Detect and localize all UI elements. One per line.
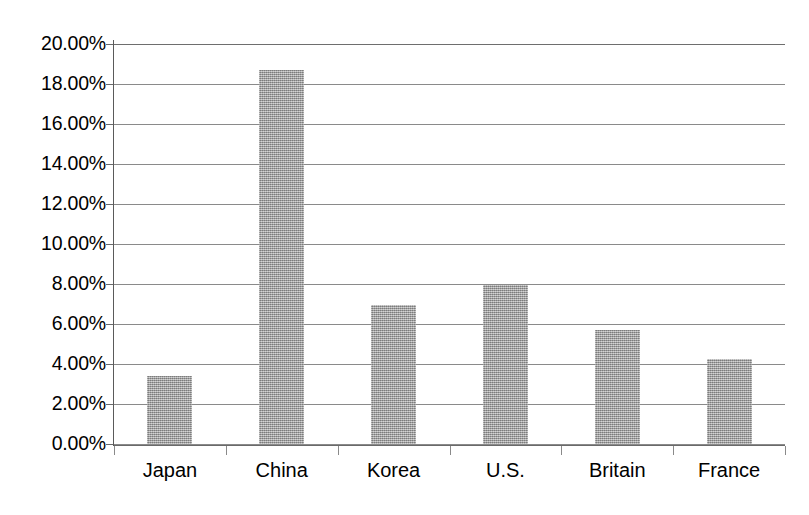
gridline — [114, 404, 785, 405]
y-axis-labels: 0.00%2.00%4.00%6.00%8.00%10.00%12.00%14.… — [0, 0, 106, 515]
y-axis-tick-label: 18.00% — [0, 74, 106, 94]
bar — [483, 285, 528, 444]
bar-chart: 0.00%2.00%4.00%6.00%8.00%10.00%12.00%14.… — [0, 0, 809, 515]
x-axis-tick-mark — [114, 446, 115, 455]
gridline — [114, 84, 785, 85]
x-axis-tick-mark — [338, 446, 339, 455]
y-axis-tick-label: 0.00% — [0, 434, 106, 454]
x-axis-category-label: Korea — [338, 459, 450, 482]
x-axis-category-label: France — [673, 459, 785, 482]
gridline — [114, 44, 785, 45]
x-axis-labels: JapanChinaKoreaU.S.BritainFrance — [114, 459, 785, 493]
gridline — [114, 164, 785, 165]
y-axis-tick-label: 2.00% — [0, 394, 106, 414]
y-axis-tick-label: 6.00% — [0, 314, 106, 334]
plot-area — [114, 44, 785, 444]
x-axis-category-label: Japan — [114, 459, 226, 482]
gridline — [114, 244, 785, 245]
x-axis-tick-mark — [226, 446, 227, 455]
gridline — [114, 444, 785, 445]
x-axis-tick-mark — [785, 446, 786, 455]
y-axis-tick-label: 16.00% — [0, 114, 106, 134]
bar — [259, 70, 304, 444]
bar — [707, 359, 752, 444]
gridline — [114, 364, 785, 365]
x-axis-tick-mark — [673, 446, 674, 455]
x-axis-category-label: China — [226, 459, 338, 482]
x-axis-tick-mark — [561, 446, 562, 455]
x-axis-category-label: Britain — [561, 459, 673, 482]
gridline — [114, 204, 785, 205]
y-axis-tick-label: 20.00% — [0, 34, 106, 54]
bar — [371, 305, 416, 444]
x-axis-category-label: U.S. — [450, 459, 562, 482]
gridline — [114, 284, 785, 285]
bar — [595, 330, 640, 444]
gridline — [114, 324, 785, 325]
x-axis-tick-mark — [450, 446, 451, 455]
gridline — [114, 124, 785, 125]
y-axis-tick-label: 8.00% — [0, 274, 106, 294]
y-axis-tick-label: 10.00% — [0, 234, 106, 254]
y-axis-tick-label: 4.00% — [0, 354, 106, 374]
y-axis-tick-label: 14.00% — [0, 154, 106, 174]
bar — [147, 376, 192, 444]
figure-caption — [6, 499, 806, 515]
y-axis-tick-label: 12.00% — [0, 194, 106, 214]
